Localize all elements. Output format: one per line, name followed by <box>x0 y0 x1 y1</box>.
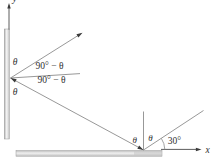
theta-bottom-left-label: θ <box>133 135 138 145</box>
x-axis-label: x <box>204 145 210 155</box>
incident-angle-label: 30° <box>168 136 182 146</box>
theta-upper-left-label: θ <box>13 57 18 67</box>
complement-angle-bottom-label: 90° − θ <box>38 75 66 85</box>
vertical-mirror <box>4 29 9 139</box>
complement-angle-top-label: 90° − θ <box>36 61 64 71</box>
diagram-canvas: y x θ θ 90° − θ 90° − θ θ θ 30° <box>0 0 213 164</box>
bottom-point-arrowhead-icon <box>137 145 143 150</box>
vertex-arrowhead-icon <box>11 78 17 83</box>
mirror-reflection-diagram: y x θ θ 90° − θ 90° − θ θ θ 30° <box>0 0 213 164</box>
incident-angle-arc <box>161 138 165 149</box>
ray-between-mirrors <box>11 78 144 150</box>
exit-ray-arrowhead-icon <box>76 33 82 38</box>
y-axis-arrowhead-icon <box>7 3 11 9</box>
y-axis-label: y <box>12 0 18 4</box>
horizontal-mirror-shading <box>134 151 162 156</box>
theta-lower-left-label: θ <box>13 87 18 97</box>
theta-bottom-right-label: θ <box>148 133 153 143</box>
x-axis-arrowhead-icon <box>196 148 202 152</box>
